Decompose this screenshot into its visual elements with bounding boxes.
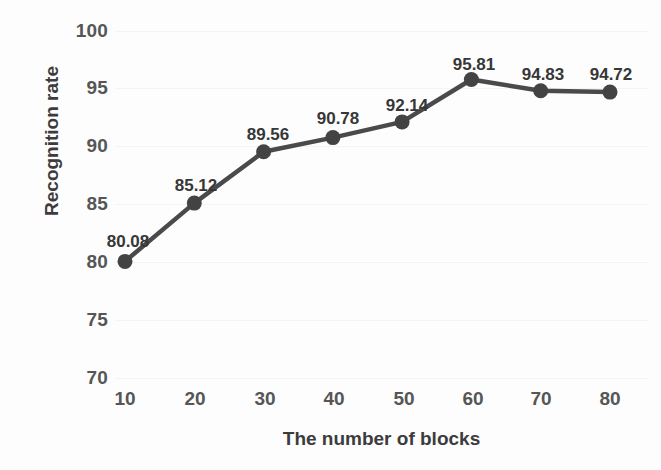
point-label-70: 94.83 — [522, 65, 565, 85]
data-point-40 — [325, 130, 340, 145]
data-point-80 — [603, 85, 618, 100]
data-point-30 — [256, 144, 271, 159]
data-point-20 — [187, 196, 202, 211]
series-markers — [118, 72, 618, 269]
point-label-10: 80.08 — [107, 232, 150, 252]
data-point-50 — [395, 114, 410, 129]
point-label-20: 85.12 — [175, 176, 218, 196]
data-point-10 — [118, 254, 133, 269]
point-label-30: 89.56 — [247, 125, 290, 145]
point-label-50: 92.14 — [386, 96, 429, 116]
point-label-80: 94.72 — [590, 65, 633, 85]
series-line — [125, 80, 610, 262]
line-chart: 100 95 90 85 80 75 70 Recognition rate 1… — [0, 0, 661, 470]
point-label-40: 90.78 — [317, 109, 360, 129]
point-label-60: 95.81 — [453, 55, 496, 75]
chart-page: 100 95 90 85 80 75 70 Recognition rate 1… — [0, 0, 661, 470]
data-point-70 — [533, 83, 548, 98]
